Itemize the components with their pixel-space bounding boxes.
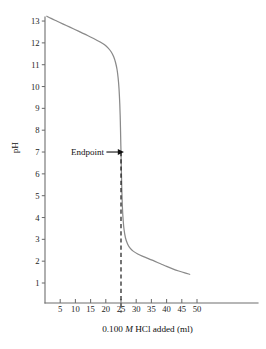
x-axis-title-suffix: HCl added (ml) (133, 324, 193, 334)
x-axis-title: 0.100 M HCl added (ml) (102, 324, 193, 334)
y-tick-label: 8 (35, 125, 39, 135)
x-tick-label: 15 (86, 304, 95, 314)
y-tick-label: 9 (35, 103, 39, 113)
y-tick-label: 13 (31, 16, 40, 26)
y-tick-label: 6 (35, 169, 40, 179)
y-tick-label: 12 (31, 38, 40, 48)
titration-curve-line (47, 16, 190, 274)
x-tick-label: 20 (102, 304, 111, 314)
titration-chart: 12345678910111213 5101520253035404550 En… (0, 0, 266, 349)
y-tick-label: 7 (35, 147, 40, 157)
plot-area: 12345678910111213 5101520253035404550 En… (10, 16, 258, 334)
endpoint-annotation-group: Endpoint (71, 147, 124, 312)
y-axis-title: pH (10, 142, 20, 154)
x-axis-title-prefix: 0.100 (102, 324, 123, 334)
x-tick-label: 30 (132, 304, 141, 314)
x-tick-label: 45 (178, 304, 187, 314)
x-axis-ticks: 5101520253035404550 (58, 299, 201, 314)
y-tick-label: 4 (35, 213, 40, 223)
y-tick-label: 2 (35, 256, 39, 266)
x-tick-label: 5 (58, 304, 62, 314)
y-axis-ticks: 12345678910111213 (31, 16, 45, 288)
endpoint-label: Endpoint (71, 147, 104, 157)
x-tick-label: 40 (162, 304, 171, 314)
x-tick-label: 35 (147, 304, 156, 314)
y-tick-label: 1 (35, 278, 39, 288)
data-series-group (47, 16, 190, 274)
x-tick-label: 50 (193, 304, 202, 314)
y-tick-label: 5 (35, 191, 39, 201)
y-tick-label: 3 (35, 234, 39, 244)
x-tick-label: 10 (71, 304, 80, 314)
y-tick-label: 11 (31, 60, 39, 70)
y-tick-label: 10 (31, 82, 40, 92)
chart-canvas: 12345678910111213 5101520253035404550 En… (0, 0, 266, 349)
